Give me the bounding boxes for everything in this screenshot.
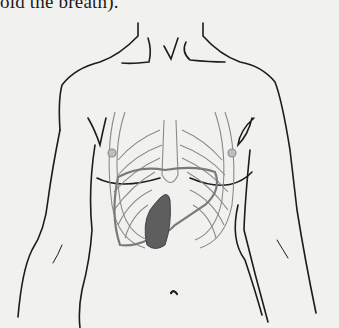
torso-anatomy-illustration	[0, 0, 339, 328]
spleen-shape	[145, 194, 170, 248]
body-outline	[18, 23, 316, 328]
